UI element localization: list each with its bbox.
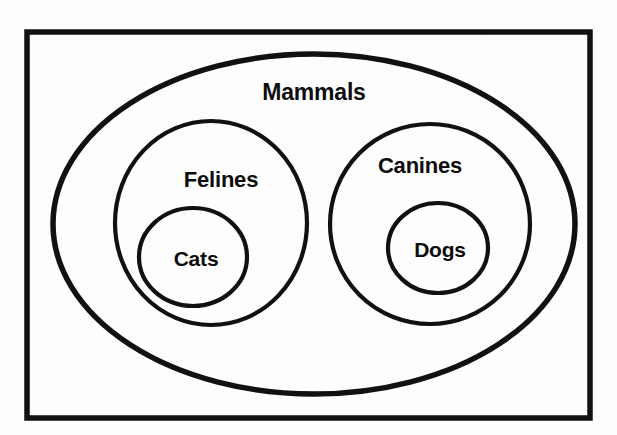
diagram-canvas: Mammals Felines Canines Cats Dogs (0, 0, 617, 435)
set-label-felines: Felines (184, 167, 258, 192)
euler-set-diagram: Mammals Felines Canines Cats Dogs (0, 0, 617, 435)
set-ellipse-felines[interactable] (115, 121, 307, 325)
set-label-mammals: Mammals (262, 79, 365, 105)
set-label-cats: Cats (174, 247, 219, 270)
set-label-canines: Canines (378, 153, 462, 178)
set-label-dogs: Dogs (414, 238, 466, 261)
